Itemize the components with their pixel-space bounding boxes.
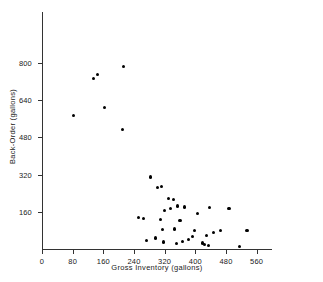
data-point (72, 114, 75, 117)
y-tick-label: 800 (19, 59, 32, 68)
data-point (208, 206, 211, 209)
data-point (142, 217, 145, 220)
data-point (175, 242, 178, 245)
data-point (121, 128, 124, 131)
data-point (103, 106, 106, 109)
data-point (193, 229, 196, 232)
y-axis-title: Back-Order (gallons) (8, 67, 17, 187)
data-point (219, 229, 222, 232)
x-axis-line (42, 249, 272, 250)
data-point (160, 185, 163, 188)
data-point (162, 240, 165, 243)
x-tick: 480 (226, 249, 227, 254)
data-point (238, 245, 241, 248)
x-axis-title: Gross Inventory (gallons) (42, 263, 272, 272)
y-tick-label: 160 (19, 207, 32, 216)
data-point (145, 239, 148, 242)
data-point (181, 240, 184, 243)
data-point (154, 236, 157, 239)
y-tick-label: 320 (19, 170, 32, 179)
data-point (245, 229, 248, 232)
x-tick: 0 (42, 249, 43, 254)
y-tick-label: 640 (19, 96, 32, 105)
data-point (227, 207, 230, 210)
y-tick: 320 (38, 175, 43, 176)
data-point (178, 219, 181, 222)
data-point (196, 212, 199, 215)
y-tick: 480 (38, 137, 43, 138)
data-point (183, 205, 186, 208)
data-point (187, 238, 190, 241)
y-tick-label: 480 (19, 133, 32, 142)
plot-area: 160320480640800 080160240320400480560 (42, 12, 272, 249)
y-tick: 800 (38, 63, 43, 64)
data-point (212, 231, 215, 234)
data-point (203, 243, 206, 246)
data-point (92, 77, 95, 80)
data-point (161, 228, 164, 231)
y-axis-line (42, 12, 43, 249)
data-point (167, 197, 170, 200)
y-tick: 640 (38, 100, 43, 101)
x-tick: 240 (134, 249, 135, 254)
data-point (205, 234, 208, 237)
x-tick: 400 (195, 249, 196, 254)
data-point (169, 207, 172, 210)
x-tick: 560 (257, 249, 258, 254)
data-point (122, 65, 125, 68)
data-point (191, 235, 194, 238)
x-tick: 160 (103, 249, 104, 254)
data-point (156, 186, 159, 189)
data-point (159, 218, 162, 221)
x-tick: 80 (73, 249, 74, 254)
data-point (137, 216, 140, 219)
data-point (96, 73, 99, 76)
x-tick: 320 (165, 249, 166, 254)
data-point (149, 175, 152, 178)
data-point (176, 204, 179, 207)
data-point (207, 244, 210, 247)
y-tick: 160 (38, 212, 43, 213)
scatter-plot-figure: 160320480640800 080160240320400480560 Gr… (0, 0, 323, 282)
data-point (163, 209, 166, 212)
data-point (173, 227, 176, 230)
data-point (172, 198, 175, 201)
